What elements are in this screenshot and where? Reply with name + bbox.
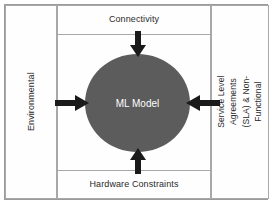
arrow-environmental-to-model: [55, 95, 89, 111]
ml-model-constraints-diagram: Environmental Connectivity Hardware Cons…: [0, 0, 274, 206]
arrow-hardware-to-model: [130, 148, 146, 174]
panel-environmental[interactable]: Environmental: [5, 5, 57, 199]
arrow-sla-to-model: [186, 95, 220, 111]
ml-model-node[interactable]: ML Model: [85, 54, 190, 152]
arrow-connectivity-to-model: [130, 31, 146, 57]
ml-model-node-label: ML Model: [116, 98, 160, 109]
panel-environmental-label: Environmental: [25, 73, 36, 132]
panel-hardware-constraints-label: Hardware Constraints: [89, 179, 178, 190]
panel-service-level-agreements-label: Service Level Agreements (SLA) & Non-Fun…: [215, 74, 264, 130]
panel-connectivity-label: Connectivity: [109, 14, 159, 25]
panel-hardware-constraints[interactable]: Hardware Constraints: [57, 170, 211, 199]
